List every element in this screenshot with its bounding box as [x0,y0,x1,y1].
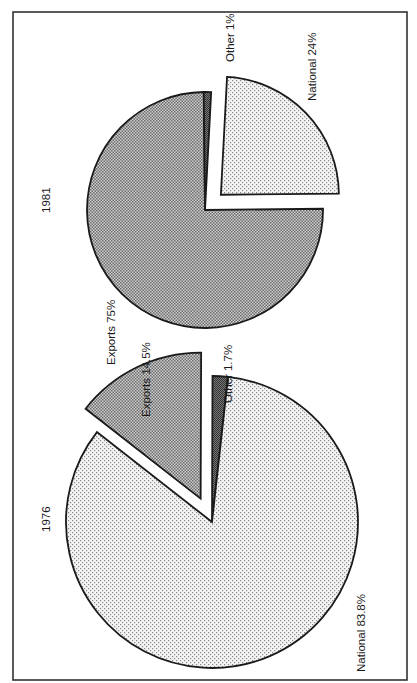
title-1981: 1981 [40,187,52,213]
label-1976-other: Other 1.7% [222,345,234,403]
label-1981-exports: Exports 75% [105,300,117,365]
pie-1976 [66,353,358,668]
wedge-1981-other [204,92,211,210]
label-1981-national: National 24% [306,33,318,101]
label-1981-other: Other 1% [224,13,236,62]
title-1976: 1976 [40,506,52,532]
wedge-1981-national [221,77,339,195]
pie-chart-figure: 1976 1981 National 83.8% Exports 14.5% O… [0,0,417,683]
label-1976-exports: Exports 14.5% [140,342,152,417]
pie-1981 [87,77,339,328]
label-1976-national: National 83.8% [355,594,367,672]
